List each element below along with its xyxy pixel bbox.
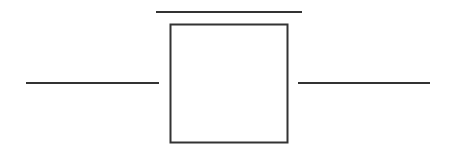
component-box	[171, 25, 288, 143]
component-diagram	[0, 0, 449, 150]
